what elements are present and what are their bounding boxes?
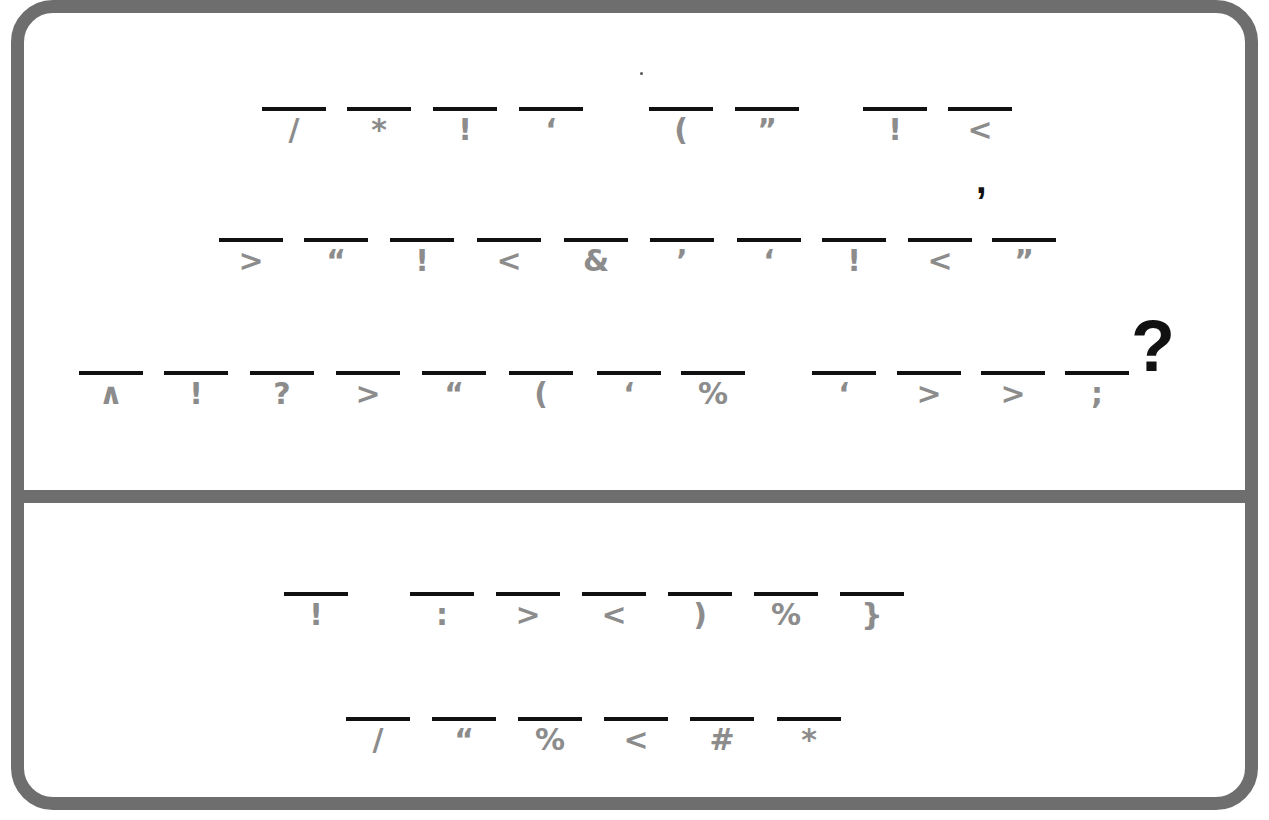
blank-line xyxy=(604,717,668,721)
clue-letter-slot[interactable]: ! xyxy=(164,371,228,431)
blank-line xyxy=(284,592,348,596)
clue-letter-slot[interactable]: ? xyxy=(250,371,314,431)
cipher-symbol: < xyxy=(582,598,646,632)
answer-letter-slot[interactable]: < xyxy=(582,592,646,652)
blank-line xyxy=(863,107,927,111)
answer-letter-slot[interactable]: < xyxy=(604,717,668,777)
blank-line xyxy=(304,238,368,242)
clue-letter-slot[interactable]: ! xyxy=(863,107,927,167)
answer-letter-slot[interactable]: % xyxy=(754,592,818,652)
answer-letter-slot[interactable]: * xyxy=(777,717,841,777)
blank-line xyxy=(519,107,583,111)
clue-letter-slot[interactable]: < xyxy=(948,107,1012,167)
clue-letter-slot[interactable]: < xyxy=(908,238,972,298)
cipher-symbol: ” xyxy=(992,244,1056,278)
cipher-symbol: * xyxy=(777,723,841,757)
answer-letter-slot[interactable]: ! xyxy=(284,592,348,652)
cipher-symbol: / xyxy=(262,113,326,147)
blank-line xyxy=(681,371,745,375)
blank-line xyxy=(346,717,410,721)
cipher-symbol: ∧ xyxy=(79,377,143,411)
clue-question-mark: ? xyxy=(1131,306,1175,386)
blank-line xyxy=(164,371,228,375)
blank-line xyxy=(812,371,876,375)
cipher-symbol: ) xyxy=(668,598,732,632)
clue-letter-slot[interactable]: & xyxy=(564,238,628,298)
answer-letter-slot[interactable]: } xyxy=(840,592,904,652)
clue-letter-slot[interactable]: ! xyxy=(390,238,454,298)
cipher-symbol: ’ xyxy=(650,244,714,278)
answer-letter-slot[interactable]: # xyxy=(690,717,754,777)
clue-letter-slot[interactable]: ‘ xyxy=(519,107,583,167)
cipher-symbol: ! xyxy=(164,377,228,411)
cipher-symbol: < xyxy=(908,244,972,278)
clue-letter-slot[interactable]: “ xyxy=(304,238,368,298)
cipher-symbol: # xyxy=(690,723,754,757)
answer-letter-slot[interactable]: % xyxy=(518,717,582,777)
answer-letter-slot[interactable]: “ xyxy=(432,717,496,777)
cipher-symbol: % xyxy=(681,377,745,411)
cipher-symbol: “ xyxy=(422,377,486,411)
blank-line xyxy=(496,592,560,596)
answer-letter-slot[interactable]: ) xyxy=(668,592,732,652)
clue-letter-slot[interactable]: < xyxy=(477,238,541,298)
blank-line xyxy=(432,717,496,721)
blank-line xyxy=(735,107,799,111)
clue-letter-slot[interactable]: ’ xyxy=(650,238,714,298)
clue-letter-slot[interactable]: > xyxy=(897,371,961,431)
cipher-symbol: > xyxy=(336,377,400,411)
cipher-symbol: ! xyxy=(284,598,348,632)
clue-letter-slot[interactable]: ” xyxy=(992,238,1056,298)
clue-letter-slot[interactable]: ( xyxy=(509,371,573,431)
clue-letter-slot[interactable]: ” xyxy=(735,107,799,167)
cipher-symbol: ? xyxy=(250,377,314,411)
answer-letter-slot[interactable]: > xyxy=(496,592,560,652)
clue-letter-slot[interactable]: ‘ xyxy=(737,238,801,298)
cipher-symbol: < xyxy=(604,723,668,757)
blank-line xyxy=(992,238,1056,242)
cipher-symbol: ( xyxy=(509,377,573,411)
blank-line xyxy=(690,717,754,721)
cipher-symbol: % xyxy=(754,598,818,632)
clue-letter-slot[interactable]: ‘ xyxy=(597,371,661,431)
cipher-symbol: * xyxy=(347,113,411,147)
clue-letter-slot[interactable]: / xyxy=(262,107,326,167)
blank-line xyxy=(410,592,474,596)
blank-line xyxy=(908,238,972,242)
clue-letter-slot[interactable]: * xyxy=(347,107,411,167)
blank-line xyxy=(597,371,661,375)
cipher-symbol: > xyxy=(496,598,560,632)
clue-letter-slot[interactable]: ! xyxy=(433,107,497,167)
clue-letter-slot[interactable]: ∧ xyxy=(79,371,143,431)
section-divider xyxy=(11,490,1258,503)
cipher-symbol: > xyxy=(897,377,961,411)
clue-letter-slot[interactable]: > xyxy=(219,238,283,298)
clue-letter-slot[interactable]: > xyxy=(981,371,1045,431)
blank-line xyxy=(422,371,486,375)
blank-line xyxy=(777,717,841,721)
blank-line xyxy=(649,107,713,111)
blank-line xyxy=(262,107,326,111)
clue-letter-slot[interactable]: % xyxy=(681,371,745,431)
clue-letter-slot[interactable]: ! xyxy=(822,238,886,298)
blank-line xyxy=(433,107,497,111)
cipher-symbol: / xyxy=(346,723,410,757)
answer-letter-slot[interactable]: / xyxy=(346,717,410,777)
cipher-symbol: ‘ xyxy=(737,244,801,278)
cipher-symbol: ; xyxy=(1065,377,1129,411)
clue-letter-slot[interactable]: ‘ xyxy=(812,371,876,431)
clue-letter-slot[interactable]: “ xyxy=(422,371,486,431)
cipher-symbol: “ xyxy=(432,723,496,757)
clue-letter-slot[interactable]: ; xyxy=(1065,371,1129,431)
blank-line xyxy=(668,592,732,596)
cipher-symbol: ! xyxy=(433,113,497,147)
cipher-symbol: } xyxy=(840,598,904,632)
clue-letter-slot[interactable]: > xyxy=(336,371,400,431)
cipher-symbol: ‘ xyxy=(812,377,876,411)
clue-letter-slot[interactable]: ( xyxy=(649,107,713,167)
blank-line xyxy=(250,371,314,375)
speck xyxy=(640,72,643,75)
answer-letter-slot[interactable]: : xyxy=(410,592,474,652)
blank-line xyxy=(754,592,818,596)
blank-line xyxy=(840,592,904,596)
